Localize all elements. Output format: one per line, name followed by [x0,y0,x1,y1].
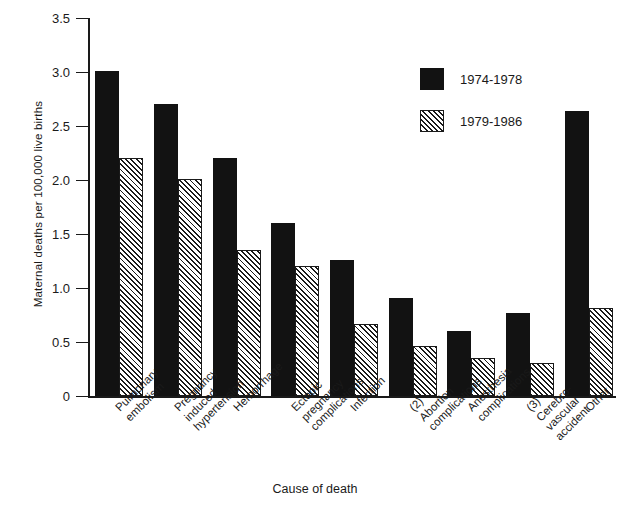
y-axis-tick: 1.5 [76,234,88,236]
y-axis-tick: 1.0 [76,288,88,290]
legend-label: 1979-1986 [460,114,522,129]
legend-item[interactable]: 1974-1978 [420,68,522,90]
legend-swatch-solid [420,68,444,90]
x-axis-category-labels: Pulmonary embolismPregnancy induced hype… [88,401,616,481]
y-axis-tick-label: 3.5 [52,11,70,26]
y-axis-tick-label: 2.0 [52,173,70,188]
bar-group [95,18,143,396]
y-axis-tick: 3.0 [76,72,88,74]
y-axis-tick-label: 0 [63,389,70,404]
y-axis-title: Maternal deaths per 100,000 live births [32,34,44,374]
y-axis-tick-label: 2.5 [52,119,70,134]
y-axis-tick: 2.5 [76,126,88,128]
legend-item[interactable]: 1979-1986 [420,110,522,132]
y-axis-tick-label: 1.5 [52,227,70,242]
maternal-mortality-bar-chart: Maternal deaths per 100,000 live births … [0,0,630,508]
x-axis-title: Cause of death [0,482,630,496]
legend: 1974-19781979-1986 [420,68,522,152]
y-axis-tick-label: 0.5 [52,335,70,350]
y-axis-tick-label: 3.0 [52,65,70,80]
y-axis-tick: 3.5 [76,18,88,20]
bar-series-2[interactable] [119,158,143,397]
legend-swatch-hatched [420,110,444,132]
y-axis-tick: 2.0 [76,180,88,182]
legend-label: 1974-1978 [460,72,522,87]
y-axis-tick: 0 [76,396,88,398]
bar-series-1[interactable] [95,71,119,396]
y-axis-tick-label: 1.0 [52,281,70,296]
y-axis-tick: 0.5 [76,342,88,344]
